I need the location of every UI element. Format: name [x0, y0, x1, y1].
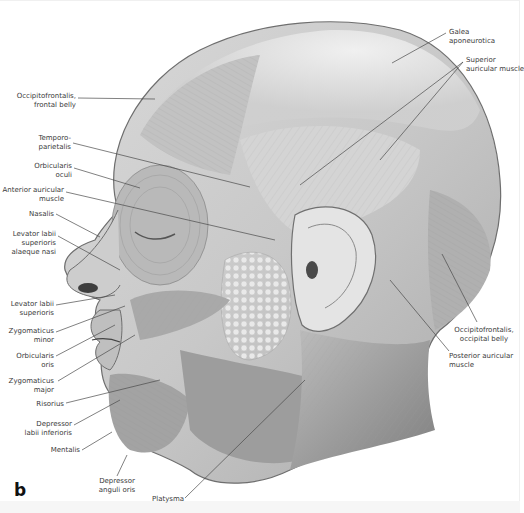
label-zygomaticus-major: Zygomaticus major — [4, 377, 54, 395]
label-depressor-labii-inferioris: Depressor labii inferioris — [4, 420, 72, 438]
label-mentalis: Mentalis — [4, 446, 80, 455]
label-posterior-auricular-muscle: Posterior auricular muscle — [449, 352, 513, 370]
label-platysma: Platysma — [152, 495, 184, 504]
label-orbicularis-oculi: Orbicularis oculi — [4, 162, 72, 180]
label-depressor-anguli-oris: Depressor anguli oris — [92, 477, 142, 495]
label-superior-auricular-muscle: Superior auricular muscle — [466, 56, 524, 74]
label-temporoparietalis: Temporo- parietalis — [4, 134, 71, 152]
label-nasalis: Nasalis — [4, 210, 54, 219]
orbicularis-oculi-region — [112, 165, 208, 285]
panel-letter: b — [14, 480, 26, 500]
label-occipitofrontalis-occipital-belly: Occipitofrontalis, occipital belly — [448, 326, 520, 344]
label-zygomaticus-minor: Zygomaticus minor — [4, 327, 54, 345]
label-occipitofrontalis-frontal-belly: Occipitofrontalis, frontal belly — [4, 92, 76, 110]
label-galea-aponeurotica: Galea aponeurotica — [449, 28, 495, 46]
label-risorius: Risorius — [4, 400, 64, 409]
label-levator-labii-superioris: Levator labii superioris — [4, 300, 54, 318]
label-orbicularis-oris: Orbicularis oris — [4, 352, 54, 370]
label-levator-labii-superioris-alaeque-nasi: Levator labii superioris alaeque nasi — [4, 230, 56, 257]
label-anterior-auricular-muscle: Anterior auricular muscle — [0, 186, 64, 204]
